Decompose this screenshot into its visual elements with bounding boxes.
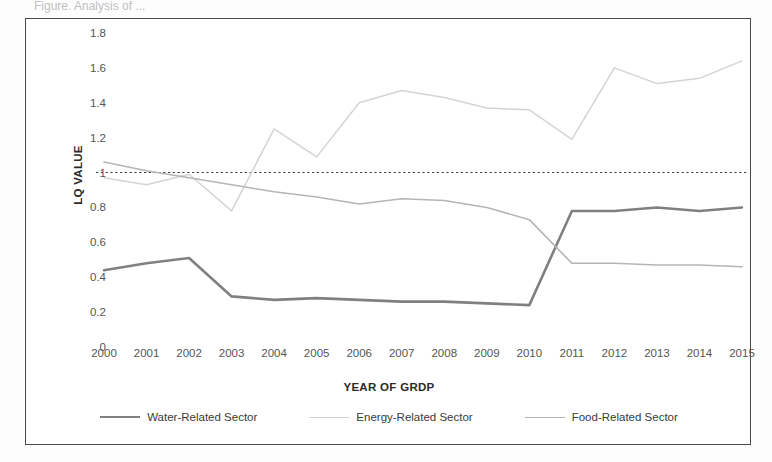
x-axis-tick: 2000 bbox=[81, 347, 127, 359]
x-axis-tick: 2010 bbox=[506, 347, 552, 359]
series-line-food-related-sector bbox=[104, 162, 742, 267]
y-axis-tick: 1.6 bbox=[60, 62, 106, 74]
x-axis-tick: 2001 bbox=[124, 347, 170, 359]
x-axis-tick: 2004 bbox=[251, 347, 297, 359]
legend-label-energy-related-sector: Energy-Related Sector bbox=[356, 411, 472, 423]
x-axis-tick: 2014 bbox=[676, 347, 722, 359]
legend-swatch-energy-related-sector bbox=[309, 417, 349, 418]
x-axis-tick: 2005 bbox=[294, 347, 340, 359]
y-axis-tick: 1.8 bbox=[60, 27, 106, 39]
legend-item-water-related-sector[interactable]: Water-Related Sector bbox=[100, 411, 257, 423]
series-line-water-related-sector bbox=[104, 207, 742, 305]
x-axis-tick: 2003 bbox=[209, 347, 255, 359]
y-axis-tick: 1.2 bbox=[60, 132, 106, 144]
x-axis-tick: 2008 bbox=[421, 347, 467, 359]
x-axis-tick: 2002 bbox=[166, 347, 212, 359]
legend-item-food-related-sector[interactable]: Food-Related Sector bbox=[525, 411, 678, 423]
legend-swatch-water-related-sector bbox=[100, 416, 140, 418]
figure-caption: Figure. Analysis of ... bbox=[0, 0, 772, 14]
x-axis-tick: 2013 bbox=[634, 347, 680, 359]
y-axis-tick: 0.2 bbox=[60, 306, 106, 318]
y-axis-tick: 0.4 bbox=[60, 271, 106, 283]
chart-plot-area: LQ VALUE 00.20.40.60.811.21.41.61.8 2000… bbox=[26, 19, 752, 446]
y-axis-tick: 1 bbox=[60, 167, 106, 179]
x-axis-tick: 2009 bbox=[464, 347, 510, 359]
figure-page: Figure. Analysis of ... LQ VALUE 00.20.4… bbox=[0, 0, 772, 462]
chart-legend: Water-Related SectorEnergy-Related Secto… bbox=[26, 411, 752, 423]
x-axis-tick: 2007 bbox=[379, 347, 425, 359]
y-axis-tick: 0.8 bbox=[60, 201, 106, 213]
y-axis-tick: 1.4 bbox=[60, 97, 106, 109]
series-line-energy-related-sector bbox=[104, 61, 742, 211]
x-axis-tick: 2011 bbox=[549, 347, 595, 359]
legend-label-water-related-sector: Water-Related Sector bbox=[147, 411, 257, 423]
y-axis-tick: 0.6 bbox=[60, 236, 106, 248]
x-axis-tick: 2012 bbox=[591, 347, 637, 359]
x-axis-tick: 2006 bbox=[336, 347, 382, 359]
legend-item-energy-related-sector[interactable]: Energy-Related Sector bbox=[309, 411, 472, 423]
x-axis-tick: 2015 bbox=[719, 347, 765, 359]
x-axis-title: YEAR OF GRDP bbox=[26, 381, 752, 393]
legend-swatch-food-related-sector bbox=[525, 417, 565, 418]
x-axis-tick-labels: 2000200120022003200420052006200720082009… bbox=[104, 347, 752, 369]
legend-label-food-related-sector: Food-Related Sector bbox=[572, 411, 678, 423]
figure-frame: LQ VALUE 00.20.40.60.811.21.41.61.8 2000… bbox=[25, 18, 751, 445]
